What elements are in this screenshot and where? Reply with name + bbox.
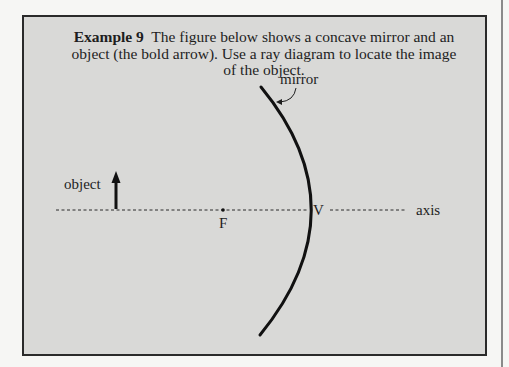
mirror-pointer-line [280, 88, 296, 102]
concave-mirror [260, 87, 311, 335]
axis-label: axis [416, 202, 440, 218]
object-arrow-head-icon [112, 171, 121, 183]
focal-point-dot [221, 208, 225, 212]
focal-point-label: F [219, 215, 227, 231]
vertex-label: V [313, 202, 324, 218]
object-label: object [64, 176, 101, 192]
ray-diagram-figure: mirror object F V axis [0, 0, 509, 367]
mirror-label: mirror [280, 71, 318, 87]
mirror-pointer-arrowhead-icon [276, 99, 282, 105]
